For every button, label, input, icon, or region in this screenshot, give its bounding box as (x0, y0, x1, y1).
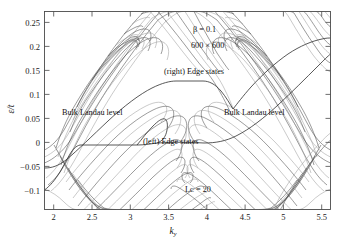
contour-family-upper-left (45, 12, 230, 192)
xtick-label-4: 4 (193, 212, 221, 222)
xtick-label-3: 3 (116, 212, 144, 222)
ytick-label-0.25: 0.25 (4, 18, 40, 28)
ytick-label--0.1: −0.1 (2, 186, 40, 196)
ytick-label-0: 0 (4, 138, 40, 148)
plot-canvas (0, 0, 345, 247)
x-axis-title: ky (169, 226, 176, 237)
xtick-label-2: 2 (40, 212, 68, 222)
ytick-label-0.2: 0.2 (4, 42, 40, 52)
annotation-system-size: Lᴄ = 20 (185, 185, 211, 194)
annotation-grid-size: 600 × 600 (191, 41, 224, 50)
y-axis-title: ε/t (6, 92, 16, 126)
xtick-label-5.5: 5.5 (308, 212, 336, 222)
y-axis-ticks (45, 22, 331, 190)
xtick-label-5: 5 (269, 212, 297, 222)
xtick-label-2.5: 2.5 (78, 212, 106, 222)
xtick-label-3.5: 3.5 (155, 212, 183, 222)
annotation-beta: β = 0.1 (193, 25, 216, 34)
ytick-label-0.15: 0.15 (4, 66, 40, 76)
xtick-label-4.5: 4.5 (231, 212, 259, 222)
contour-plot-figure: 0.25 0.2 0.15 0.1 0.05 0 −0.05 −0.1 2 2.… (0, 0, 345, 247)
annotation-right-edge-states: (right) Edge states (164, 67, 224, 76)
annotation-bulk-landau-level-left: Bulk Landau level (62, 108, 122, 117)
annotation-left-edge-states: (left) Edge states (143, 137, 198, 146)
ytick-label--0.05: −0.05 (2, 162, 40, 172)
annotation-bulk-landau-level-right: Bulk Landau level (224, 108, 284, 117)
